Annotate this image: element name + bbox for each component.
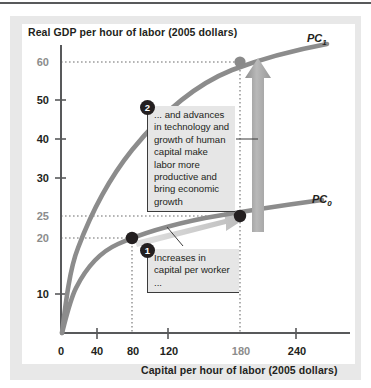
curve-label-pc0: PC0 xyxy=(312,193,332,208)
x-tick-label-240: 240 xyxy=(288,345,306,357)
curve-label-pc1-base: PC xyxy=(307,32,323,44)
step-badge-1: 1 xyxy=(140,243,155,258)
curve-label-pc0-sub: 0 xyxy=(327,199,332,208)
y-tick-label-30: 30 xyxy=(37,172,49,184)
y-axis-tick-labels: 60 50 40 30 25 20 10 xyxy=(37,56,49,300)
y-tick-label-10: 10 xyxy=(37,288,49,300)
y-tick-label-20: 20 xyxy=(37,232,49,244)
curve-label-pc1-sub: 1 xyxy=(322,38,327,47)
callout-box-1: Increases in capital per worker ... xyxy=(147,249,239,293)
x-tick-label-80: 80 xyxy=(127,345,139,357)
x-axis-title: Capital per hour of labor (2005 dollars) xyxy=(141,364,338,376)
curve-label-pc0-base: PC xyxy=(312,193,328,205)
y-tick-label-40: 40 xyxy=(37,133,49,145)
x-tick-label-180: 180 xyxy=(232,345,250,357)
x-tick-label-120: 120 xyxy=(160,345,178,357)
callout-box-2: ... and advances in technology and growt… xyxy=(147,106,235,212)
point-pc1-at-180 xyxy=(234,56,245,67)
point-pc0-at-80 xyxy=(126,232,138,244)
point-pc0-at-180 xyxy=(234,210,246,222)
y-tick-label-25: 25 xyxy=(37,210,49,222)
y-tick-label-50: 50 xyxy=(37,94,49,106)
x-tick-label-0: 0 xyxy=(58,345,64,357)
economics-figure: Real GDP per hour of labor (2005 dollars… xyxy=(0,0,371,388)
x-tick-label-40: 40 xyxy=(91,345,103,357)
x-axis-tick-labels: 0 40 80 120 180 240 xyxy=(58,345,306,357)
step-badge-2: 2 xyxy=(140,100,155,115)
y-tick-label-60: 60 xyxy=(37,56,49,68)
